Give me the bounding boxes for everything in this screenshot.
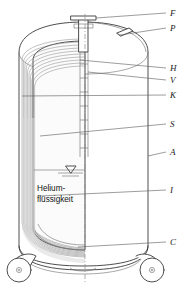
neck-flange	[71, 16, 96, 20]
liquid-label-line1: Helium-	[37, 184, 65, 193]
caster-left-wheel	[7, 258, 31, 282]
caster-wheel-right	[136, 254, 164, 282]
callout-label-H: H	[169, 63, 177, 73]
caster-wheel-left	[7, 254, 36, 282]
leader-A	[148, 152, 166, 156]
callout-label-K: K	[169, 90, 177, 100]
leader-F	[96, 13, 166, 18]
callout-label-C: C	[170, 237, 177, 247]
dewar-diagram: F P H V K S A I C Helium- flüssigkeit	[0, 0, 191, 292]
diagram-canvas: F P H V K S A I C Helium- flüssigkeit	[0, 0, 191, 292]
callout-labels: F P H V K S A I C	[169, 8, 177, 247]
liquid-label-line2: flüssigkeit	[37, 195, 74, 204]
callout-label-I: I	[169, 185, 174, 195]
callout-label-F: F	[169, 8, 176, 18]
caster-right-wheel	[140, 258, 164, 282]
callout-label-A: A	[169, 147, 176, 157]
callout-label-S: S	[170, 119, 175, 129]
callout-label-P: P	[169, 23, 176, 33]
callout-label-V: V	[170, 75, 177, 85]
